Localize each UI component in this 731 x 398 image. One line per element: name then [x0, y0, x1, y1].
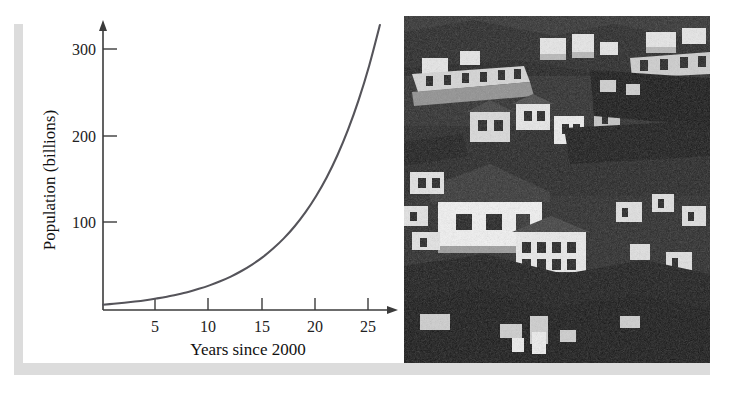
- population-curve: [103, 25, 380, 305]
- photo-svg: [404, 16, 710, 363]
- x-tick-label-5: 5: [151, 318, 159, 335]
- population-chart: 300 200 100 5 10 15 20 25 Years since 20…: [0, 0, 400, 398]
- y-tick-label-100: 100: [72, 214, 96, 231]
- x-tick-label-10: 10: [200, 318, 216, 335]
- x-ticks-group: [155, 298, 368, 310]
- x-tick-labels-group: 5 10 15 20 25: [151, 318, 376, 335]
- y-ticks-group: [103, 49, 117, 222]
- settlement-photograph: [404, 16, 710, 363]
- y-tick-label-200: 200: [72, 128, 96, 145]
- y-tick-labels-group: 300 200 100: [72, 41, 96, 231]
- figure-container: 300 200 100 5 10 15 20 25 Years since 20…: [0, 0, 731, 398]
- y-axis-title: Population (billions): [40, 110, 59, 250]
- axes-group: [99, 20, 398, 314]
- x-axis-title: Years since 2000: [190, 340, 305, 359]
- y-axis-arrow: [99, 20, 107, 31]
- x-axis-arrow: [387, 306, 398, 314]
- chart-svg: 300 200 100 5 10 15 20 25 Years since 20…: [0, 0, 400, 398]
- x-tick-label-15: 15: [254, 318, 270, 335]
- x-tick-label-25: 25: [360, 318, 376, 335]
- y-tick-label-300: 300: [72, 41, 96, 58]
- x-tick-label-20: 20: [307, 318, 323, 335]
